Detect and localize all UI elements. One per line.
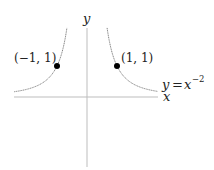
svg-text:x: x — [184, 77, 192, 92]
point-left-label: (−1, 1) — [14, 51, 56, 65]
svg-text:y: y — [161, 77, 170, 92]
point-marker-right — [114, 63, 120, 69]
chart-plot: y x (−1, 1) (1, 1) y = x −2 — [0, 0, 214, 170]
curve-equation-label: y = x −2 — [161, 74, 205, 92]
point-right-label: (1, 1) — [121, 51, 153, 65]
y-axis-label: y — [82, 11, 91, 26]
svg-text:=: = — [172, 77, 183, 92]
svg-text:−2: −2 — [192, 74, 205, 84]
